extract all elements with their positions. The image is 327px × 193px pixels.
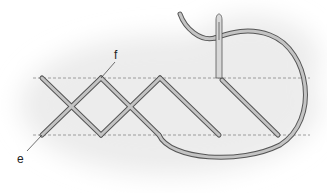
needle-icon [216, 14, 222, 78]
label-e: e [17, 152, 24, 166]
stitch-diagram [0, 0, 327, 193]
label-f: f [114, 48, 117, 62]
